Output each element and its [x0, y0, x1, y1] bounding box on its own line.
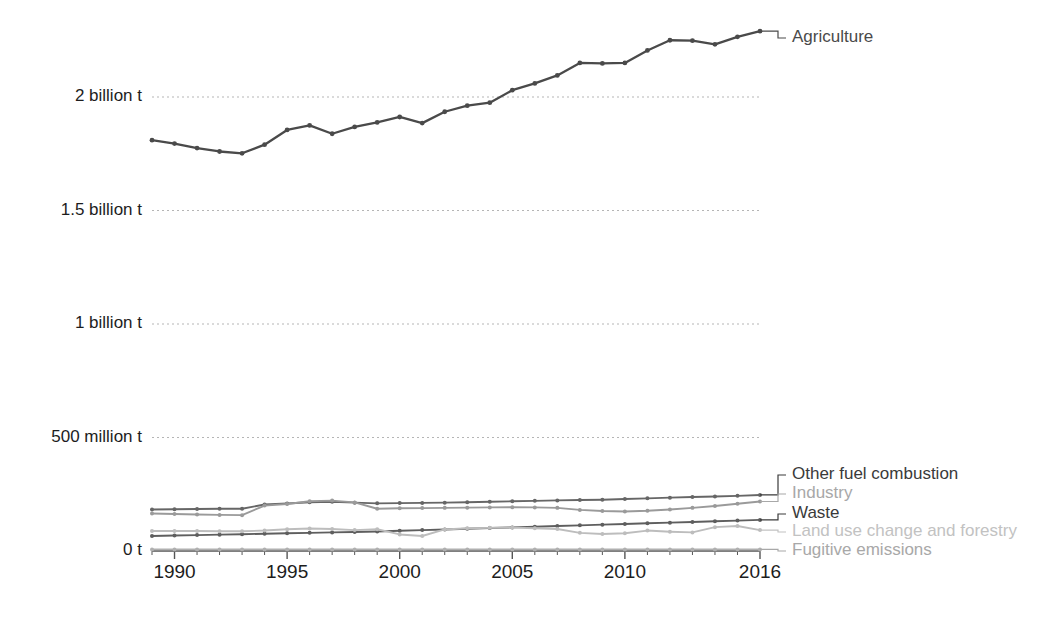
data-point-marker	[713, 42, 718, 47]
data-point-marker	[555, 498, 559, 502]
series-label-agriculture: Agriculture	[792, 27, 873, 46]
data-point-marker	[555, 547, 559, 551]
data-point-marker	[173, 534, 177, 538]
data-point-marker	[195, 529, 199, 533]
data-point-marker	[735, 502, 739, 506]
x-axis-tick-label: 1990	[153, 561, 195, 582]
data-point-marker	[600, 523, 604, 527]
data-point-marker	[578, 547, 582, 551]
series-agriculture	[150, 29, 763, 156]
data-point-marker	[173, 547, 177, 551]
data-point-marker	[668, 496, 672, 500]
data-point-marker	[420, 534, 424, 538]
data-series-lines	[150, 29, 763, 552]
data-point-marker	[285, 547, 289, 551]
data-point-marker	[218, 513, 222, 517]
data-point-marker	[555, 527, 559, 531]
data-point-marker	[308, 547, 312, 551]
data-point-marker	[263, 547, 267, 551]
emissions-line-chart: 0 t500 million t1 billion t1.5 billion t…	[0, 0, 1044, 618]
data-point-marker	[443, 501, 447, 505]
data-point-marker	[375, 507, 379, 511]
data-point-marker	[263, 504, 267, 508]
data-point-marker	[578, 498, 582, 502]
data-point-marker	[308, 527, 312, 531]
x-axis-tick-label: 2016	[739, 561, 781, 582]
data-point-marker	[308, 531, 312, 535]
data-point-marker	[150, 507, 154, 511]
data-point-marker	[375, 501, 379, 505]
data-point-marker	[195, 547, 199, 551]
data-point-marker	[600, 61, 605, 66]
data-point-marker	[240, 513, 244, 517]
data-point-marker	[420, 121, 425, 126]
data-point-marker	[600, 532, 604, 536]
data-point-marker	[398, 506, 402, 510]
data-point-marker	[532, 81, 537, 86]
leader-line	[760, 530, 786, 532]
data-point-marker	[173, 529, 177, 533]
series-label-other-fuel-combustion: Other fuel combustion	[792, 464, 958, 483]
chart-canvas: 0 t500 million t1 billion t1.5 billion t…	[0, 0, 1044, 618]
data-point-marker	[668, 547, 672, 551]
data-point-marker	[172, 141, 177, 146]
data-point-marker	[713, 504, 717, 508]
series-label-land-use-change-and-forestry: Land use change and forestry	[792, 521, 1017, 540]
data-point-marker	[623, 531, 627, 535]
data-point-marker	[240, 547, 244, 551]
data-point-marker	[420, 547, 424, 551]
data-point-marker	[195, 512, 199, 516]
data-point-marker	[443, 527, 447, 531]
data-point-marker	[533, 526, 537, 530]
data-point-marker	[195, 507, 199, 511]
data-point-marker	[623, 497, 627, 501]
data-point-marker	[240, 151, 245, 156]
data-point-marker	[150, 512, 154, 516]
leader-line	[760, 514, 786, 520]
data-point-marker	[442, 109, 447, 114]
y-axis-tick-labels: 0 t500 million t1 billion t1.5 billion t…	[51, 86, 142, 559]
series-label-fugitive-emissions: Fugitive emissions	[792, 540, 932, 559]
series-labels: AgricultureOther fuel combustionIndustry…	[792, 27, 1017, 559]
data-point-marker	[668, 521, 672, 525]
data-point-marker	[555, 73, 560, 78]
leader-line	[760, 31, 786, 38]
data-point-marker	[240, 529, 244, 533]
data-point-marker	[443, 506, 447, 510]
data-point-marker	[420, 501, 424, 505]
data-point-marker	[645, 496, 649, 500]
data-point-marker	[690, 506, 694, 510]
data-point-marker	[398, 529, 402, 533]
data-point-marker	[713, 547, 717, 551]
data-point-marker	[150, 529, 154, 533]
data-point-marker	[577, 61, 582, 66]
data-point-marker	[173, 507, 177, 511]
y-axis-tick-label: 0 t	[123, 540, 142, 559]
data-point-marker	[645, 529, 649, 533]
y-axis-tick-label: 1.5 billion t	[61, 200, 143, 219]
data-point-marker	[218, 529, 222, 533]
x-axis	[152, 551, 760, 559]
data-point-marker	[307, 123, 312, 128]
x-axis-tick-label: 1995	[266, 561, 308, 582]
data-point-marker	[690, 495, 694, 499]
data-point-marker	[713, 519, 717, 523]
data-point-marker	[488, 505, 492, 509]
data-point-marker	[510, 505, 514, 509]
data-point-marker	[488, 547, 492, 551]
data-point-marker	[465, 506, 469, 510]
data-point-marker	[735, 494, 739, 498]
data-point-marker	[195, 146, 200, 151]
data-point-marker	[150, 534, 154, 538]
data-point-marker	[352, 125, 357, 130]
data-point-marker	[578, 523, 582, 527]
data-point-marker	[217, 149, 222, 154]
data-point-marker	[375, 547, 379, 551]
data-point-marker	[330, 131, 335, 136]
data-point-marker	[623, 510, 627, 514]
data-point-marker	[398, 501, 402, 505]
data-point-marker	[645, 509, 649, 513]
data-point-marker	[668, 507, 672, 511]
data-point-marker	[533, 499, 537, 503]
data-point-marker	[578, 531, 582, 535]
